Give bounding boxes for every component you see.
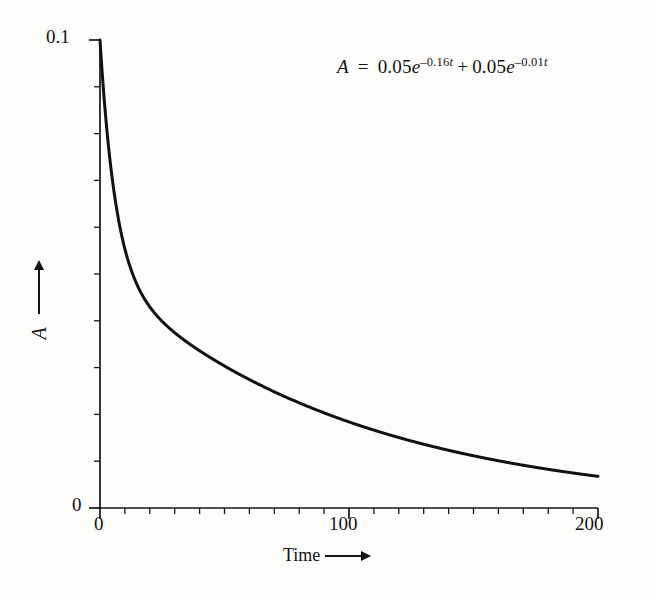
equation-annotation: A = 0.05e–0.16t+0.05e–0.01t bbox=[337, 56, 548, 78]
x-axis-title: Time bbox=[283, 545, 371, 566]
y-tick-label-min: 0 bbox=[72, 494, 82, 516]
y-tick-label-max: 0.1 bbox=[46, 26, 70, 48]
equation-equals: = bbox=[358, 56, 369, 77]
equation-term1-exp-num: –0.16 bbox=[420, 55, 449, 69]
equation-term1-exp-var: t bbox=[450, 55, 454, 69]
y-axis-title-text: A bbox=[28, 327, 51, 339]
y-axis-title: A bbox=[24, 255, 54, 345]
x-tick-label-0: 0 bbox=[94, 513, 104, 535]
plot-area bbox=[0, 0, 654, 596]
y-axis-ticks bbox=[89, 40, 100, 508]
x-axis-title-text: Time bbox=[283, 545, 320, 566]
equation-term1-exponent: –0.16t bbox=[420, 55, 453, 69]
arrow-up-icon bbox=[33, 260, 45, 314]
equation-term2-exp-var: t bbox=[544, 55, 548, 69]
equation-lhs: A bbox=[337, 56, 349, 77]
equation-term2-exponent: –0.01t bbox=[515, 55, 548, 69]
equation-term1-coeff: 0.05 bbox=[378, 56, 412, 77]
figure-canvas: 0.1 0 0 100 200 Time A A = 0.05e–0.16t+0… bbox=[0, 0, 654, 596]
axis-lines bbox=[100, 40, 598, 508]
x-tick-label-200: 200 bbox=[575, 513, 604, 535]
equation-term2-coeff: 0.05 bbox=[472, 56, 506, 77]
arrow-right-icon bbox=[325, 550, 371, 561]
equation-term2-base: e bbox=[506, 56, 515, 77]
decay-curve bbox=[100, 40, 598, 476]
equation-plus: + bbox=[457, 56, 468, 77]
x-tick-label-100: 100 bbox=[329, 513, 358, 535]
equation-term2-exp-num: –0.01 bbox=[515, 55, 544, 69]
